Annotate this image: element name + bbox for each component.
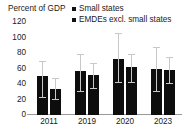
error-bar-cap-high [90,63,97,64]
error-bar-line [80,55,81,92]
error-bar-cap-high [166,57,173,58]
error-bar-cap-low [115,82,122,83]
y-tick-label: 100 [0,33,30,43]
error-bar-line [131,55,132,83]
bar-2020-series2 [126,22,137,115]
bar-2023-series2 [164,22,175,115]
x-axis-label-2020: 2020 [105,117,145,127]
x-axis-label-2011: 2011 [29,117,69,127]
y-tick-label: 40 [0,79,30,89]
error-bar-line [156,48,157,91]
bar-2011-series1 [37,22,48,115]
legend-swatch-icon [72,18,76,22]
error-bar-cap-low [90,88,97,89]
error-bar-cap-high [52,78,59,79]
error-bar-line [42,62,43,98]
error-bar-line [169,58,170,84]
error-bar-cap-low [128,82,135,83]
plot-area: 020406080100120 2011201920202023 [30,22,182,115]
y-tick-label: 120 [0,17,30,27]
bar-2011-series2 [50,22,61,115]
legend-swatch-icon [72,7,76,11]
error-bar-cap-low [77,91,84,92]
bar-group-2019 [68,22,106,115]
y-axis-unit-title: Percent of GDP [8,4,65,14]
error-bar-line [118,34,119,84]
legend-item-small-states: Small states [72,3,187,14]
bar-2020-series1 [113,22,124,115]
bar-2019-series2 [88,22,99,115]
error-bar-cap-low [39,97,46,98]
error-bar-cap-low [166,83,173,84]
y-tick-0: 0 [0,110,30,120]
chart-figure: Percent of GDP Small states EMDEs excl. … [0,0,187,139]
bar-group-2020 [106,22,144,115]
legend-label-small-states: Small states [79,4,124,13]
bar-group-2023 [144,22,182,115]
error-bar-cap-high [77,54,84,55]
error-bar-cap-low [153,91,160,92]
error-bar-line [93,64,94,90]
bar-2019-series1 [75,22,86,115]
y-tick-40: 40 [0,79,30,89]
error-bar-cap-high [39,61,46,62]
y-tick-100: 100 [0,33,30,43]
y-tick-label: 60 [0,64,30,74]
y-tick-label: 80 [0,48,30,58]
error-bar-line [55,79,56,99]
y-tick-80: 80 [0,48,30,58]
y-tick-20: 20 [0,95,30,105]
bar-2023-series1 [151,22,162,115]
y-tick-120: 120 [0,17,30,27]
error-bar-cap-low [52,99,59,100]
x-axis-label-2023: 2023 [143,117,183,127]
bar-group-2011 [30,22,68,115]
error-bar-cap-high [128,54,135,55]
y-tick-label: 20 [0,95,30,105]
error-bar-cap-high [115,33,122,34]
y-tick-60: 60 [0,64,30,74]
error-bar-cap-high [153,47,160,48]
y-tick-label: 0 [0,110,30,120]
x-axis-label-2019: 2019 [67,117,107,127]
